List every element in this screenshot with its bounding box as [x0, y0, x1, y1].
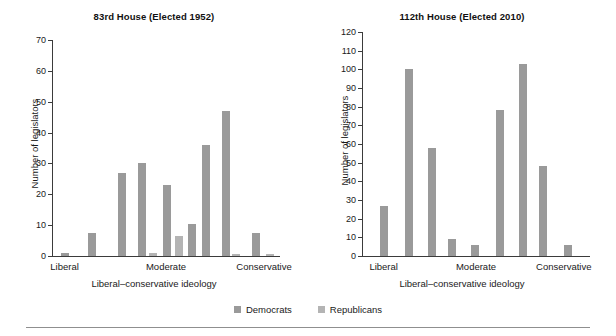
y-tick-label-right: 20 [346, 214, 356, 224]
y-tick-label-left: 20 [36, 189, 46, 199]
y-tick-label-left: 0 [41, 251, 46, 261]
bar-democrats [252, 233, 260, 256]
y-tick-right [358, 181, 362, 182]
y-tick-label-left: 50 [36, 97, 46, 107]
y-tick-right [358, 69, 362, 70]
bar-democrats [496, 110, 504, 256]
bar-democrats [88, 233, 96, 256]
y-tick-left [48, 194, 52, 195]
y-tick-label-right: 110 [342, 46, 356, 56]
bar-democrats [428, 148, 436, 256]
bar-republicans [266, 254, 274, 256]
y-tick-label-left: 60 [36, 66, 46, 76]
bar-democrats [163, 185, 171, 256]
legend-item-democrats[interactable]: Democrats [234, 304, 292, 315]
y-tick-label-right: 30 [346, 195, 356, 205]
x-tick-label-conservative: Conservative [236, 261, 291, 272]
y-tick-right [358, 163, 362, 164]
x-axis-line-left [52, 256, 280, 257]
y-tick-label-right: 50 [346, 158, 356, 168]
bar-republicans [175, 236, 183, 256]
figure-panel-group: 83rd House (Elected 1952) Number of legi… [0, 0, 616, 336]
y-tick-label-left: 70 [36, 35, 46, 45]
y-tick-label-left: 30 [36, 158, 46, 168]
y-tick-label-right: 10 [346, 232, 356, 242]
chart-title-right: 112th House (Elected 2010) [308, 11, 616, 22]
x-tick-label-moderate: Moderate [146, 261, 186, 272]
y-axis-line-right [362, 32, 363, 257]
y-tick-left [48, 102, 52, 103]
bar-democrats [564, 245, 572, 256]
chart-panel-112th-house: 112th House (Elected 2010) Number of leg… [308, 0, 616, 300]
x-axis-line-right [362, 256, 590, 257]
y-tick-label-right: 80 [346, 102, 356, 112]
y-tick-label-right: 70 [346, 120, 356, 130]
x-tick-label-liberal: Liberal [369, 261, 398, 272]
y-tick-right [358, 88, 362, 89]
x-axis-label-right: Liberal–conservative ideology [308, 278, 616, 289]
bar-republicans [149, 253, 157, 256]
y-tick-left [48, 71, 52, 72]
bar-democrats [519, 64, 527, 256]
x-tick-label-liberal: Liberal [50, 261, 79, 272]
legend-item-republicans[interactable]: Republicans [318, 304, 382, 315]
bar-democrats [188, 224, 196, 256]
y-tick-label-right: 40 [346, 176, 356, 186]
plot-area-right: 0102030405060708090100110120LiberalModer… [362, 32, 590, 257]
x-tick-label-conservative: Conservative [536, 261, 591, 272]
bar-democrats [61, 253, 69, 256]
y-tick-label-right: 120 [341, 27, 356, 37]
bar-democrats [471, 245, 479, 256]
bar-democrats [448, 239, 456, 256]
y-tick-right [358, 51, 362, 52]
bar-democrats [118, 173, 126, 256]
y-tick-right [358, 237, 362, 238]
y-tick-label-right: 60 [346, 139, 356, 149]
y-tick-right [358, 32, 362, 33]
bar-democrats [138, 163, 146, 256]
square-swatch-icon [234, 306, 241, 313]
y-tick-left [48, 133, 52, 134]
legend-item-label: Democrats [246, 304, 292, 315]
y-axis-line-left [52, 40, 53, 257]
bar-democrats [539, 166, 547, 256]
chart-panel-83rd-house: 83rd House (Elected 1952) Number of legi… [0, 0, 308, 300]
bar-democrats [222, 111, 230, 256]
y-tick-right [358, 107, 362, 108]
footer-divider [26, 327, 590, 328]
bar-democrats [380, 206, 388, 256]
legend-item-label: Republicans [330, 304, 382, 315]
square-swatch-icon [318, 306, 325, 313]
y-tick-left [48, 225, 52, 226]
y-tick-left [48, 163, 52, 164]
y-tick-label-left: 40 [36, 128, 46, 138]
y-tick-left [48, 40, 52, 41]
y-tick-right [358, 219, 362, 220]
y-tick-label-right: 100 [341, 64, 356, 74]
y-tick-label-right: 90 [346, 83, 356, 93]
y-tick-right [358, 144, 362, 145]
bar-republicans [232, 254, 240, 256]
x-axis-label-left: Liberal–conservative ideology [0, 278, 308, 289]
y-tick-right [358, 125, 362, 126]
plot-area-left: 010203040506070LiberalModerateConservati… [52, 40, 280, 257]
chart-legend: DemocratsRepublicans [0, 304, 616, 315]
y-tick-left [48, 256, 52, 257]
y-tick-label-left: 10 [36, 220, 46, 230]
bar-democrats [405, 69, 413, 256]
x-tick-label-moderate: Moderate [456, 261, 496, 272]
bar-democrats [202, 145, 210, 256]
y-tick-label-right: 0 [351, 251, 356, 261]
y-tick-right [358, 256, 362, 257]
chart-title-left: 83rd House (Elected 1952) [0, 11, 308, 22]
y-tick-right [358, 200, 362, 201]
